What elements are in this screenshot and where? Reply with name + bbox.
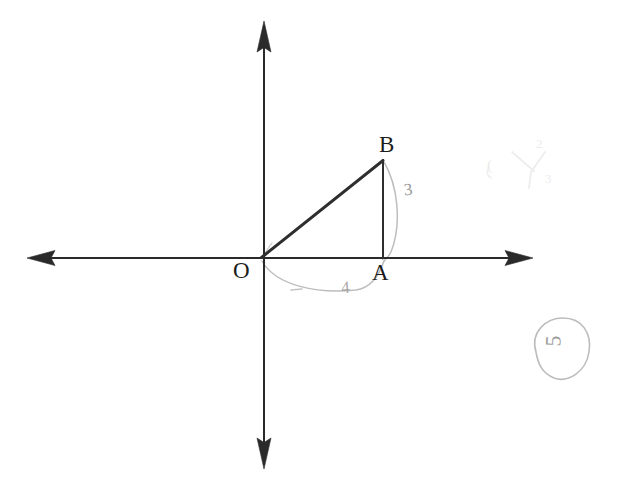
annotation-erased-1: ( bbox=[487, 158, 492, 173]
point-label-o: O bbox=[233, 259, 250, 282]
annotation-erased-3: 3 bbox=[545, 172, 552, 185]
annotation-side-ab: 3 bbox=[403, 181, 413, 199]
diagram-vector-layer bbox=[0, 0, 617, 494]
annotation-circled-mark: 5 bbox=[542, 335, 564, 347]
annotation-side-oa: 4 bbox=[340, 279, 350, 297]
scanned-diagram-canvas: O A B 3 4 5 ( 2 3 bbox=[0, 0, 617, 494]
point-label-a: A bbox=[372, 261, 389, 284]
point-label-b: B bbox=[379, 133, 394, 156]
annotation-erased-2: 2 bbox=[536, 137, 543, 150]
